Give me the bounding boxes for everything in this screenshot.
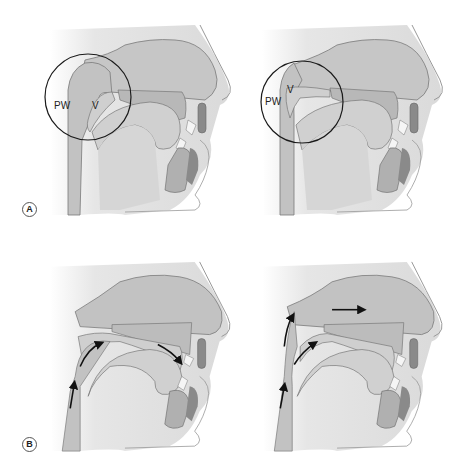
panel-b-left: B	[0, 237, 231, 474]
label-v: V	[92, 100, 99, 111]
row-badge-b: B	[22, 437, 37, 452]
head-sagittal-section-illustration	[232, 237, 463, 474]
head-sagittal-section-illustration	[0, 0, 231, 237]
label-pw: PW	[54, 100, 70, 111]
row-badge-a: A	[22, 202, 37, 217]
label-v: V	[287, 84, 294, 95]
head-sagittal-section-illustration	[232, 0, 463, 237]
panel-a-left: PW V A	[0, 0, 231, 237]
panel-b-right	[232, 237, 463, 474]
panel-a-right: PW V	[232, 0, 463, 237]
label-pw: PW	[265, 96, 281, 107]
